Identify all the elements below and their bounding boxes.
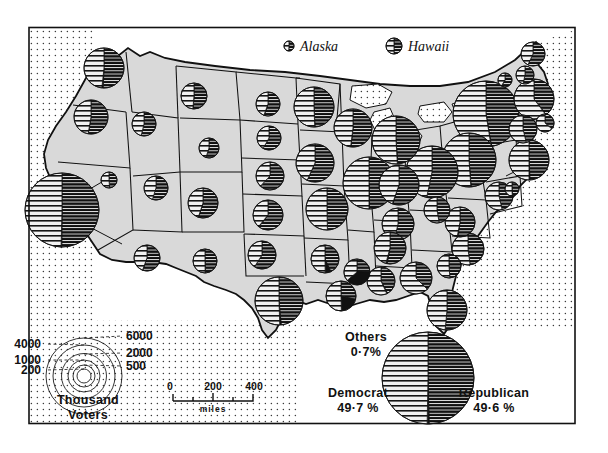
state-pie-or [74,100,108,134]
state-pie-nj [509,140,549,180]
state-pie-ri [536,114,554,132]
state-pie-nv [101,172,117,188]
state-pie-ct [509,115,537,143]
map-canvas: Alaska Hawaii Others 0·7% Democrat 49·7 … [0,0,608,453]
state-pie-fl [427,290,467,330]
state-pie-ms [344,259,370,285]
hawaii-pie-symbol [386,38,402,54]
state-pie-wi [334,109,372,147]
size-legend-title-line2: Voters [68,408,108,422]
state-pie-ia [296,144,334,182]
state-pie-mo [306,188,348,230]
state-pie-me [521,42,545,66]
scale-unit-label: miles [200,404,227,414]
state-pie-nm [193,249,217,273]
size-legend-tick-4000: 4000 [14,337,41,351]
size-legend-tick-2000: 2000 [126,346,153,360]
state-pie-ks [253,200,283,230]
scale-tick-0: 0 [167,380,173,392]
state-pie-ne [256,162,284,190]
scale-tick-400: 400 [245,380,263,392]
democrat-label: Democrat [328,386,389,400]
state-pie-ma [514,79,554,119]
state-pie-sd [257,126,281,150]
national-summary-pie [382,332,474,424]
state-pie-wa [84,48,124,88]
republican-value: 49·6 % [473,401,514,415]
state-pie-mi [372,116,420,164]
state-pie-mn [294,87,334,127]
alaska-label: Alaska [299,39,338,54]
state-pie-wv [424,197,450,223]
map-figure: Alaska Hawaii Others 0·7% Democrat 49·7 … [0,0,608,453]
state-pie-mt [181,83,207,109]
state-pie-la [326,281,356,311]
state-pie-tx [255,277,303,325]
state-pie-wy [199,138,219,158]
state-pie-de [505,182,519,196]
state-pie-nd [256,92,280,116]
state-pie-vt [498,73,512,87]
state-pie-ca [25,173,99,247]
hawaii-inset: Hawaii [386,38,449,54]
hawaii-label: Hawaii [407,39,449,54]
size-legend-title-line1: Thousand [57,393,119,407]
state-pie-az [134,245,160,271]
alaska-pie-symbol [284,41,294,51]
state-pie-tn [374,232,406,264]
state-pie-id [132,112,156,136]
state-pie-ut [144,176,168,200]
state-pie-ga [400,262,432,294]
state-pie-co [188,188,218,218]
democrat-value: 49·7 % [337,401,378,415]
size-legend-tick-200: 200 [21,363,41,377]
others-label: Others [345,330,387,344]
republican-label: Republican [459,386,529,400]
state-pie-in [379,165,419,205]
state-pie-ar [311,245,339,273]
others-value: 0·7% [351,345,381,359]
state-pie-sc [437,254,461,278]
state-pie-ok [248,241,276,269]
size-legend-tick-500: 500 [126,359,146,373]
scale-tick-200: 200 [204,380,222,392]
state-pie-al [367,267,395,295]
size-legend-tick-6000: 6000 [126,329,153,343]
state-pie-nh [516,66,534,84]
